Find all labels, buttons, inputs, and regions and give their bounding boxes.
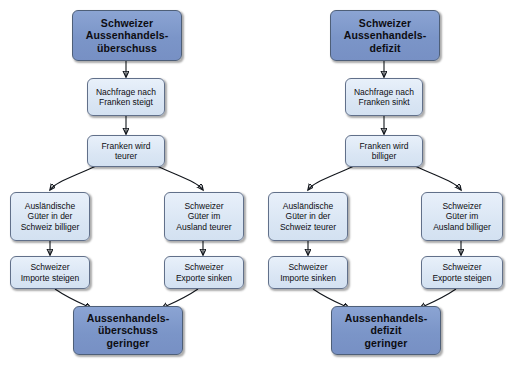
node-surplus-right-effect: Schweizer Güter im Ausland teurer <box>164 192 244 241</box>
node-deficit-demand: Nachfrage nach Franken sinkt <box>345 78 423 116</box>
node-deficit-conclusion: Aussenhandels- defizit geringer <box>331 306 441 355</box>
arrow-currency-to-right-effect-right <box>415 166 461 190</box>
arrow-currency-to-left-effect-left <box>50 166 96 190</box>
node-surplus-left-effect: Ausländische Güter in der Schweiz billig… <box>10 192 90 241</box>
node-surplus-left-result: Schweizer Importe steigen <box>10 256 90 289</box>
node-surplus-head: Schweizer Aussenhandels- überschuss <box>72 10 182 61</box>
node-deficit-right-effect: Schweizer Güter im Ausland billiger <box>421 192 503 241</box>
node-deficit-left-result: Schweizer Importe sinken <box>268 256 348 289</box>
node-deficit-head: Schweizer Aussenhandels- defizit <box>330 10 440 61</box>
node-deficit-right-result: Schweizer Exporte steigen <box>421 256 503 289</box>
node-deficit-left-effect: Ausländische Güter in der Schweiz teurer <box>268 192 348 241</box>
node-surplus-right-result: Schweizer Exporte sinken <box>164 256 244 289</box>
node-surplus-conclusion: Aussenhandels- überschuss geringer <box>73 306 183 355</box>
node-surplus-demand: Nachfrage nach Franken steigt <box>87 78 165 116</box>
arrow-currency-to-right-effect-left <box>157 166 203 190</box>
node-surplus-currency: Franken wird teurer <box>87 135 165 167</box>
node-deficit-currency: Franken wird billiger <box>345 135 423 167</box>
arrow-currency-to-left-effect-right <box>308 166 354 190</box>
flowchart-canvas: Schweizer Aussenhandels- überschuss Nach… <box>0 0 512 365</box>
